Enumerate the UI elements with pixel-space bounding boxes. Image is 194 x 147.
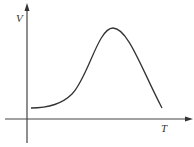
y-axis-label: V [16,12,24,24]
y-axis-arrow-icon [25,3,30,11]
v-t-diagram: V T [0,0,194,147]
y-axis [25,3,30,143]
x-axis-label: T [161,122,168,134]
v-t-curve [31,28,162,108]
x-axis-arrow-icon [185,117,193,122]
x-axis [5,117,193,122]
